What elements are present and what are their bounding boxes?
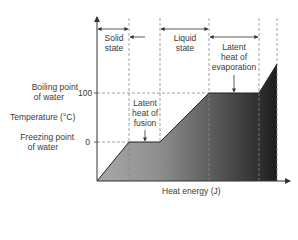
label-line: Freezing point [10,132,74,142]
label-line: heat of [209,52,259,62]
label-line: Latent [209,42,259,52]
label-line: state [164,43,206,53]
region-label-liquid: Liquid state [164,33,206,53]
region-label-solid: Solid state [101,33,127,53]
tick-label-0: 0 [80,137,90,147]
label-line: of water [10,92,78,102]
label-line: heat of [130,108,160,118]
label-line: evaporation [209,62,259,72]
tick-label-100: 100 [78,88,92,98]
label-line: Solid [101,33,127,43]
label-line: Latent [130,98,160,108]
label-line: fusion [130,118,160,128]
plateau-label-fusion: Latent heat of fusion [130,98,160,128]
label-line: state [101,43,127,53]
boiling-point-label: Boiling point of water [10,82,78,102]
label-line: Boiling point [10,82,78,92]
x-axis-label: Heat energy (J) [162,186,221,196]
label-line: of water [10,142,74,152]
label-line: Liquid [164,33,206,43]
region-label-evaporation: Latent heat of evaporation [209,42,259,72]
freezing-point-label: Freezing point of water [10,132,74,152]
y-axis-label: Temperature (°C) [10,112,75,122]
curve-fill-area [97,64,277,181]
